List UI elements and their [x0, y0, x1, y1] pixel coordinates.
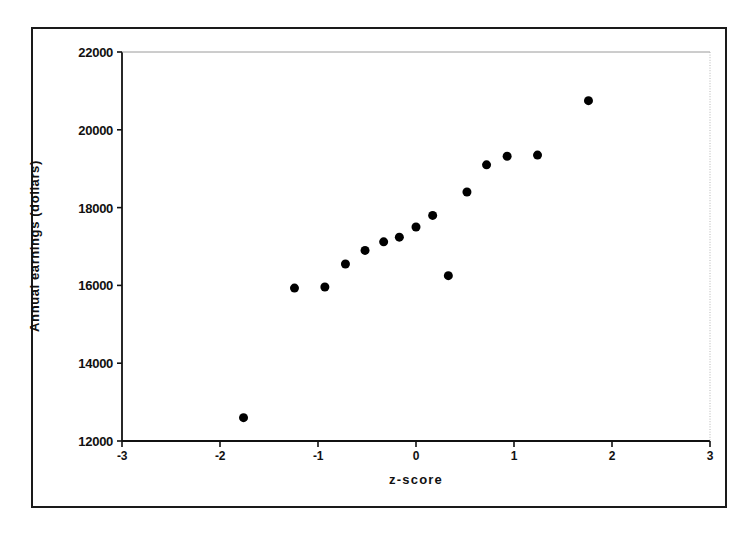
- data-point: [584, 96, 593, 105]
- data-point: [412, 223, 421, 232]
- data-point: [462, 188, 471, 197]
- figure-root: 120001400016000180002000022000-3-2-10123…: [0, 0, 755, 541]
- tick-marks-group: [117, 52, 710, 447]
- y-tick-label: 16000: [55, 278, 113, 293]
- scatter-plot-canvas: [0, 0, 755, 541]
- x-tick-label: -2: [215, 449, 225, 463]
- data-point: [428, 211, 437, 220]
- data-points-group: [239, 96, 593, 422]
- y-axis-title: Annual earnings (dollars): [27, 160, 42, 332]
- y-tick-label: 12000: [55, 434, 113, 449]
- data-point: [482, 160, 491, 169]
- x-tick-label: -3: [117, 449, 127, 463]
- y-tick-label: 18000: [55, 200, 113, 215]
- data-point: [379, 237, 388, 246]
- x-tick-label: 2: [609, 449, 615, 463]
- y-tick-label: 20000: [55, 122, 113, 137]
- data-point: [341, 260, 350, 269]
- data-point: [290, 284, 299, 293]
- axes-group: [122, 52, 710, 441]
- x-tick-label: 1: [511, 449, 517, 463]
- data-point: [444, 271, 453, 280]
- x-axis-title: z-score: [389, 472, 443, 487]
- x-tick-label: 3: [707, 449, 713, 463]
- x-tick-label: -1: [313, 449, 323, 463]
- data-point: [533, 151, 542, 160]
- x-tick-label: 0: [413, 449, 419, 463]
- data-point: [395, 233, 404, 242]
- y-tick-label: 22000: [55, 45, 113, 60]
- data-point: [239, 413, 248, 422]
- y-tick-label: 14000: [55, 356, 113, 371]
- data-point: [320, 282, 329, 291]
- data-point: [361, 246, 370, 255]
- data-point: [503, 152, 512, 161]
